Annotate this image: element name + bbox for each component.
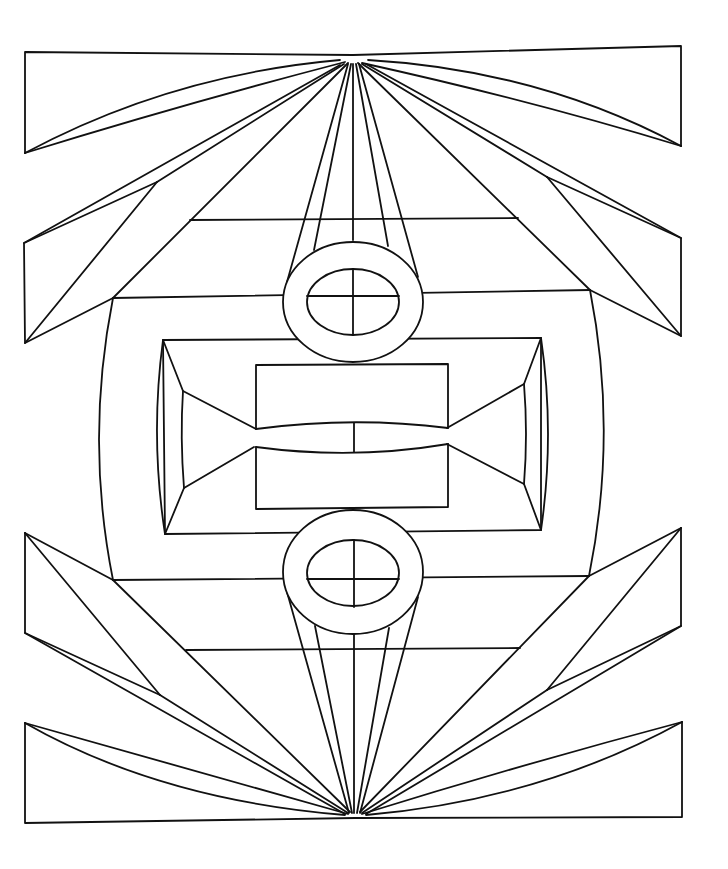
bottom-ring-inner [307, 540, 399, 606]
geometric-line-art [0, 0, 728, 869]
